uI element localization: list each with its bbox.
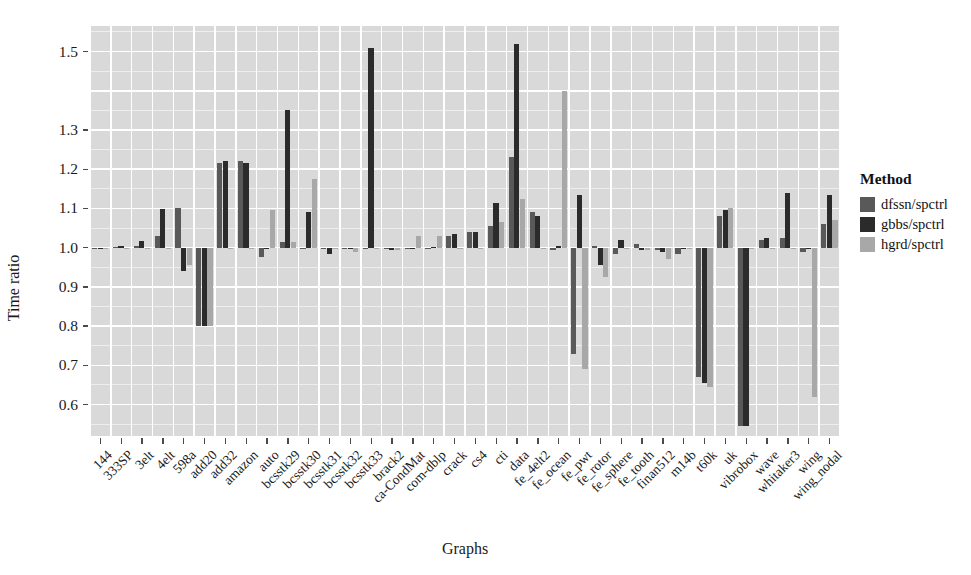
y-tick-label: 0.6 — [59, 397, 78, 413]
bar — [478, 248, 483, 249]
x-tick-mark — [475, 438, 476, 444]
bar — [181, 248, 186, 272]
bar — [645, 248, 650, 250]
y-tick-mark — [83, 325, 88, 326]
bar — [603, 248, 608, 277]
bar — [571, 248, 576, 354]
bar — [384, 248, 389, 249]
legend-label: gbbs/spctrl — [881, 217, 945, 232]
bar — [431, 247, 436, 248]
legend-item: hgrd/spctrl — [860, 235, 970, 254]
bar — [300, 248, 305, 249]
gridline-vertical — [818, 26, 820, 436]
bar — [499, 222, 504, 248]
bar — [717, 216, 722, 247]
x-tick-mark — [829, 438, 830, 444]
bar — [556, 246, 561, 248]
y-tick-label: 0.7 — [59, 357, 78, 373]
bar — [348, 248, 353, 249]
y-tick-mark — [83, 208, 88, 209]
bar — [139, 241, 144, 248]
bar — [196, 248, 201, 326]
x-axis-label: Graphs — [442, 540, 488, 558]
legend-swatch — [860, 197, 875, 212]
bar — [488, 226, 493, 248]
bar — [749, 248, 754, 249]
legend-item: dfssn/spctrl — [860, 195, 970, 214]
y-tick-label: 0.8 — [59, 318, 78, 334]
bar — [280, 242, 285, 248]
x-tick-mark — [350, 438, 351, 444]
y-tick-label: 1.1 — [59, 200, 78, 216]
x-tick-mark — [100, 438, 101, 444]
bar — [264, 248, 269, 249]
x-tick-mark — [433, 438, 434, 444]
bar — [342, 248, 347, 249]
bar — [202, 248, 207, 326]
x-tick-mark — [808, 438, 809, 444]
x-tick-mark — [725, 438, 726, 444]
bar — [530, 212, 535, 247]
bar — [791, 248, 796, 249]
bar — [681, 248, 686, 249]
y-tick-mark — [83, 365, 88, 366]
x-tick-mark — [787, 438, 788, 444]
plot-panel — [90, 26, 840, 436]
bar — [166, 248, 171, 249]
bar — [541, 248, 546, 249]
bar — [410, 248, 415, 249]
gridline-vertical — [610, 26, 612, 436]
bar — [707, 248, 712, 387]
bar — [738, 248, 743, 427]
bar — [145, 248, 150, 249]
bar — [675, 248, 680, 254]
bar — [175, 208, 180, 247]
x-tick-mark — [329, 438, 330, 444]
gridline-vertical — [89, 26, 91, 436]
bar — [437, 236, 442, 248]
bar — [624, 248, 629, 249]
bar — [92, 248, 97, 249]
bar — [634, 244, 639, 248]
x-tick-mark — [766, 438, 767, 444]
x-tick-mark — [621, 438, 622, 444]
bar — [598, 248, 603, 266]
y-tick-mark — [83, 169, 88, 170]
bar — [249, 248, 254, 249]
gridline-vertical — [527, 26, 529, 436]
bar — [806, 248, 811, 249]
bar — [509, 157, 514, 247]
gridline-vertical — [548, 26, 550, 436]
bar — [613, 248, 618, 254]
x-tick-mark — [391, 438, 392, 444]
x-tick-mark — [683, 438, 684, 444]
x-tick-mark — [600, 438, 601, 444]
bar — [687, 248, 692, 249]
legend-title: Method — [860, 170, 970, 188]
x-tick-mark — [537, 438, 538, 444]
bar — [321, 248, 326, 249]
x-tick-mark — [371, 438, 372, 444]
bar — [103, 248, 108, 249]
bar — [425, 248, 430, 249]
gridline-vertical — [318, 26, 320, 436]
bar — [374, 248, 379, 249]
gridline-vertical — [298, 26, 300, 436]
bar — [368, 48, 373, 248]
gridline-vertical — [110, 26, 112, 436]
bar — [666, 248, 671, 260]
bar — [743, 248, 748, 427]
y-tick-label: 1.0 — [59, 240, 78, 256]
bar — [285, 110, 290, 247]
bar — [389, 248, 394, 250]
y-axis-label: Time ratio — [5, 254, 23, 321]
bar — [363, 248, 368, 249]
bar — [827, 195, 832, 248]
y-tick-mark — [83, 51, 88, 52]
y-tick-label: 0.9 — [59, 279, 78, 295]
bar — [728, 208, 733, 247]
gridline-vertical — [381, 26, 383, 436]
bar — [452, 234, 457, 248]
bar — [238, 161, 243, 247]
gridline-vertical — [673, 26, 675, 436]
